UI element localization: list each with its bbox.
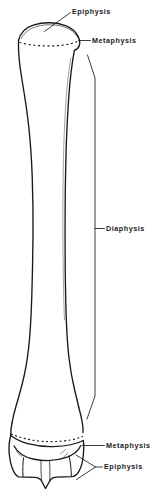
distal-condyle-left-fold — [23, 458, 24, 477]
leader-diaphysis-bracket — [87, 55, 95, 419]
leader-epiphysis-distal-bracket — [76, 455, 96, 480]
proximal-epiphyseal-plate — [20, 41, 79, 46]
distal-epiphysis-outline — [9, 436, 84, 489]
proximal-epiphysis-outline — [19, 23, 79, 41]
bone-medullary-line — [63, 58, 71, 320]
intercondylar-notch-left — [41, 461, 42, 481]
bone-left-cortex — [12, 41, 33, 424]
label-diaphysis: Diaphysis — [106, 225, 145, 232]
distal-metaphysis-left — [11, 423, 12, 435]
label-epiphysis-proximal: Epiphysis — [72, 8, 111, 15]
label-epiphysis-distal: Epiphysis — [104, 463, 143, 470]
distal-trabecular-marks — [17, 449, 68, 458]
label-metaphysis-distal: Metaphysis — [106, 442, 151, 449]
distal-condyle-contour — [14, 446, 81, 461]
bone-illustration — [0, 0, 161, 504]
leader-epiphysis-proximal — [45, 13, 71, 32]
long-bone-diagram: Epiphysis Metaphysis Diaphysis Metaphysi… — [0, 0, 161, 504]
label-metaphysis-proximal: Metaphysis — [92, 37, 137, 44]
distal-metaphysis-right — [79, 408, 83, 433]
distal-epiphyseal-plate — [12, 434, 83, 442]
bone-right-cortex — [65, 50, 79, 407]
proximal-epiphysis-right-edge — [74, 36, 79, 50]
distal-condyle-right-fold — [69, 456, 71, 476]
